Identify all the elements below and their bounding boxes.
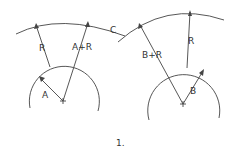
radius-a-plus-r-line — [63, 23, 88, 101]
circle-a-arc — [29, 66, 99, 111]
circle-b-arc — [148, 75, 220, 120]
label-b-plus-r: B+R — [142, 50, 162, 60]
arc-b-plus-r — [118, 14, 224, 42]
arrow-a-plus-r — [85, 21, 90, 27]
radius-b-plus-r-line — [140, 25, 183, 104]
arrow-b — [199, 69, 204, 76]
arrow-a — [39, 76, 45, 82]
label-b: B — [190, 86, 196, 96]
arrow-b-plus-r — [138, 23, 143, 29]
arc-a-plus-r — [16, 23, 125, 36]
label-a-plus-r: A+R — [72, 42, 92, 52]
label-r-right: R — [188, 36, 194, 46]
tangent-arc-diagram: R A+R A C B+R R B 1. — [0, 0, 237, 152]
figure-number: 1. — [116, 138, 125, 148]
arrow-r-right — [188, 10, 192, 16]
label-r-left: R — [39, 43, 45, 53]
label-c: C — [110, 25, 116, 35]
label-a: A — [42, 90, 49, 100]
